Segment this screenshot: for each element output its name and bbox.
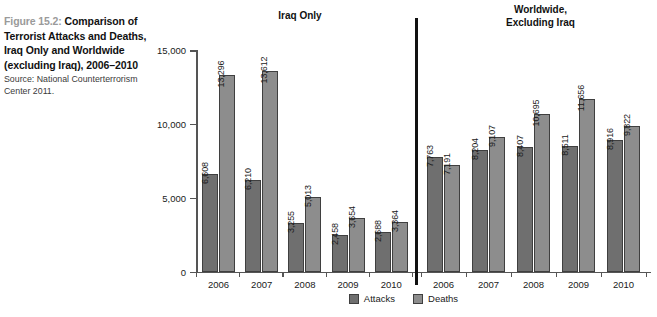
bar-group: 8,9169,8222010 xyxy=(607,126,640,271)
x-axis-tick-mark xyxy=(282,272,283,277)
bar-deaths[interactable]: 13,296 xyxy=(219,75,235,271)
x-axis-category-label: 2010 xyxy=(613,279,634,290)
bar-group: 3,2555,0132008 xyxy=(288,197,321,271)
x-axis-category-label: 2007 xyxy=(478,279,499,290)
panel-divider-line xyxy=(415,18,418,285)
panel-heading-worldwide-line1: Worldwide, xyxy=(428,4,653,17)
x-axis-category-label: 2008 xyxy=(523,279,544,290)
x-axis-tick-mark xyxy=(196,272,197,277)
bar-deaths[interactable]: 10,695 xyxy=(534,114,550,272)
bar-deaths[interactable]: 5,013 xyxy=(305,197,321,271)
bar-deaths[interactable]: 13,612 xyxy=(262,71,278,272)
bar-value-label: 9,822 xyxy=(622,114,632,136)
y-axis-tick-label: 5,000 xyxy=(162,192,186,203)
bar-value-label: 8,916 xyxy=(605,128,615,150)
bar-value-label: 3,364 xyxy=(389,210,399,232)
x-axis-category-label: 2008 xyxy=(294,279,315,290)
bar-attacks[interactable]: 6,608 xyxy=(202,174,218,272)
bar-value-label: 6,608 xyxy=(200,162,210,184)
bar-value-label: 7,763 xyxy=(425,145,435,167)
bar-group: 7,7637,1912006 xyxy=(427,157,460,272)
bar-attacks[interactable]: 2,688 xyxy=(375,232,391,272)
bar-value-label: 5,013 xyxy=(303,185,313,207)
x-axis-category-label: 2009 xyxy=(338,279,359,290)
bar-attacks[interactable]: 8,407 xyxy=(517,147,533,271)
bar-value-label: 6,210 xyxy=(243,168,253,190)
bar-deaths[interactable]: 3,654 xyxy=(349,218,365,272)
figure-caption-title: Figure 15.2: Comparison of Terrorist Att… xyxy=(4,14,162,72)
bar-attacks[interactable]: 6,210 xyxy=(245,180,261,272)
legend-item[interactable]: Attacks xyxy=(349,293,395,304)
x-axis-tick-mark xyxy=(646,272,647,277)
y-axis-tick-label: 0 xyxy=(181,266,186,277)
bar-group: 6,60813,2962006 xyxy=(202,75,235,271)
x-axis-line xyxy=(196,272,651,273)
bar-value-label: 11,656 xyxy=(576,85,586,111)
bar-value-label: 10,695 xyxy=(531,99,541,126)
y-axis-tick-label: 15,000 xyxy=(157,45,186,56)
x-axis-category-label: 2010 xyxy=(381,279,402,290)
bar-group: 8,2049,1072007 xyxy=(472,137,505,271)
bar-value-label: 3,255 xyxy=(286,211,296,233)
legend-label: Deaths xyxy=(428,293,458,304)
panel-heading-iraq: Iraq Only xyxy=(185,10,415,23)
bar-group: 8,51111,6562009 xyxy=(562,99,595,271)
bar-value-label: 7,191 xyxy=(442,153,452,175)
y-axis-tick-mark xyxy=(190,198,196,200)
bar-value-label: 8,204 xyxy=(470,138,480,160)
legend-swatch-attacks xyxy=(349,294,359,304)
bar-value-label: 2,458 xyxy=(329,223,339,245)
figure-number-label: Figure 15.2: xyxy=(4,15,62,27)
x-axis-tick-mark xyxy=(601,272,602,277)
x-axis-tick-mark xyxy=(239,272,240,277)
bar-attacks[interactable]: 2,458 xyxy=(332,235,348,271)
legend-label: Attacks xyxy=(364,293,395,304)
x-axis-category-label: 2009 xyxy=(568,279,589,290)
bar-value-label: 13,296 xyxy=(216,61,226,88)
y-axis-line xyxy=(196,50,198,272)
bar-group: 8,40710,6952008 xyxy=(517,114,550,272)
y-axis-tick-label: 10,000 xyxy=(157,118,186,129)
bar-attacks[interactable]: 3,255 xyxy=(288,223,304,271)
bar-deaths[interactable]: 11,656 xyxy=(579,99,595,271)
y-axis-tick-mark xyxy=(190,124,196,126)
bar-attacks[interactable]: 8,916 xyxy=(607,140,623,272)
x-axis-category-label: 2007 xyxy=(251,279,272,290)
figure-source-note: Source: National Counterterrorism Center… xyxy=(4,74,162,97)
x-axis-tick-mark xyxy=(369,272,370,277)
x-axis-tick-mark xyxy=(511,272,512,277)
bar-value-label: 8,511 xyxy=(560,134,570,155)
panel-heading-worldwide-line2: Excluding Iraq xyxy=(428,17,653,30)
chart-plot-area: Iraq Only Worldwide, Excluding Iraq 15,0… xyxy=(150,0,657,317)
bar-attacks[interactable]: 8,511 xyxy=(562,146,578,272)
bar-value-label: 3,654 xyxy=(346,206,356,228)
x-axis-tick-mark xyxy=(412,272,413,277)
bar-group: 6,21013,6122007 xyxy=(245,71,278,272)
bar-value-label: 2,688 xyxy=(372,220,382,242)
bar-deaths[interactable]: 7,191 xyxy=(444,165,460,271)
panel-heading-worldwide: Worldwide, Excluding Iraq xyxy=(428,4,653,29)
bar-attacks[interactable]: 8,204 xyxy=(472,150,488,271)
x-axis-category-label: 2006 xyxy=(208,279,229,290)
x-axis-tick-mark xyxy=(326,272,327,277)
x-axis-tick-mark xyxy=(421,272,422,277)
figure-caption: Figure 15.2: Comparison of Terrorist Att… xyxy=(4,14,162,106)
bar-deaths[interactable]: 9,107 xyxy=(489,137,505,271)
x-axis-tick-mark xyxy=(556,272,557,277)
bar-deaths[interactable]: 9,822 xyxy=(624,126,640,271)
bar-group: 2,4583,6542009 xyxy=(332,218,365,272)
bar-value-label: 13,612 xyxy=(260,56,270,83)
legend-item[interactable]: Deaths xyxy=(413,293,458,304)
bar-value-label: 8,407 xyxy=(515,135,525,157)
bar-deaths[interactable]: 3,364 xyxy=(392,222,408,272)
legend-swatch-deaths xyxy=(413,294,423,304)
bar-group: 2,6883,3642010 xyxy=(375,222,408,272)
y-axis-tick-mark xyxy=(190,50,196,52)
bar-value-label: 9,107 xyxy=(487,125,497,147)
chart-legend: AttacksDeaths xyxy=(150,293,657,304)
x-axis-category-label: 2006 xyxy=(433,279,454,290)
x-axis-tick-mark xyxy=(466,272,467,277)
